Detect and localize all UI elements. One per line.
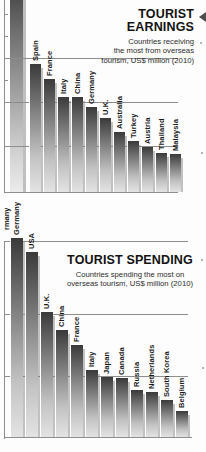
bar-label-uk: U.K. xyxy=(101,100,110,115)
bar-germany-spending[interactable]: Germany xyxy=(10,238,23,437)
chart1-baseline xyxy=(4,192,178,193)
chart2-title-block: TOURIST SPENDING Countries spending the … xyxy=(56,254,204,289)
chart-tourist-spending: Germany USA U.K. China France Italy xyxy=(0,199,200,439)
bar-italy-spending[interactable]: Italy xyxy=(85,370,98,437)
bar-label-austria: Austria xyxy=(143,117,152,144)
bar-belgium-spending[interactable]: Belgium xyxy=(175,411,188,437)
bar-austria[interactable]: Austria xyxy=(141,147,153,192)
bar-southkorea-spending[interactable]: South Korea xyxy=(160,400,173,437)
bar-label-thailand: Thailand xyxy=(157,118,166,150)
bar-label-spain: Spain xyxy=(31,40,40,61)
bar-label-germany: Germany xyxy=(87,71,96,104)
page-edge-dot-icon xyxy=(200,42,202,44)
bar-label-italy-spending: Italy xyxy=(87,351,96,367)
bar-france[interactable]: France xyxy=(43,79,55,192)
page-edge-dot-icon xyxy=(201,259,203,261)
bar-label-usa-spending: USA xyxy=(27,233,36,249)
chart1-title-block: TOURIST EARNINGS Countries receiving the… xyxy=(72,8,194,65)
bar-label-belgium-spending: Belgium xyxy=(177,378,186,408)
bar-label-russia-spending: Russia xyxy=(132,362,141,387)
bar-label-australia: Australia xyxy=(115,96,124,129)
bar-label-japan-spending: Japan xyxy=(102,352,111,374)
chart1-subtitle-line-3: tourism, US$ million (2010) xyxy=(72,56,194,65)
bar-italy[interactable]: Italy xyxy=(57,97,69,192)
bar-usa-spending[interactable]: USA xyxy=(25,252,38,437)
bar-canada-spending[interactable]: Canada xyxy=(115,378,128,437)
bar-uk-spending[interactable]: U.K. xyxy=(40,312,53,437)
bar-label-netherlands-spending: Netherlands xyxy=(147,345,156,389)
chart2-subtitle-line-2: overseas tourism, US$ million (2010) xyxy=(56,279,204,288)
bar-label-italy: Italy xyxy=(59,78,68,94)
page-edge-dot-icon xyxy=(202,367,204,369)
bar-label-uk-spending: U.K. xyxy=(42,294,51,309)
bar-label-france: France xyxy=(45,51,54,76)
chart2-plot-area: Germany USA U.K. China France Italy xyxy=(0,199,200,439)
bar-label-southkorea-spending: South Korea xyxy=(162,351,171,397)
bar-label-france-spending: France xyxy=(72,317,81,342)
chart1-subtitle-line-1: Countries receiving xyxy=(72,37,194,46)
bar-label-canada-spending: Canada xyxy=(117,347,126,375)
bar-china-spending[interactable]: China xyxy=(55,330,68,437)
bar-turkey[interactable]: Turkey xyxy=(127,141,139,192)
infographic-page: rmany Spain France xyxy=(0,0,206,452)
bar-russia-spending[interactable]: Russia xyxy=(130,390,143,437)
bar-japan-spending[interactable]: Japan xyxy=(100,377,113,437)
chart2-subtitle-line-1: Countries spending the most on xyxy=(56,270,204,279)
bar-thailand[interactable]: Thailand xyxy=(155,153,167,192)
bar-label-turkey: Turkey xyxy=(129,113,138,138)
bar-netherlands-spending[interactable]: Netherlands xyxy=(145,392,158,437)
page-edge-dot-icon xyxy=(201,152,203,154)
bar-label-germany-spending: Germany xyxy=(12,202,21,235)
bar-france-spending[interactable]: France xyxy=(70,345,83,437)
chart1-subtitle-line-2: the most from overseas xyxy=(72,46,194,55)
bar-germany[interactable]: Germany xyxy=(85,107,97,192)
bar-label-malaysia: Malaysia xyxy=(171,119,180,151)
page-edge-arrow-icon xyxy=(199,12,206,22)
chart1-title: TOURIST EARNINGS xyxy=(72,8,194,34)
bar-malaysia[interactable]: Malaysia xyxy=(169,154,181,192)
bar-australia[interactable]: Australia xyxy=(113,132,125,192)
bar-china[interactable]: China xyxy=(71,97,83,192)
chart2-bars: Germany USA U.K. China France Italy xyxy=(0,199,200,437)
bar-label-china-spending: China xyxy=(57,306,66,327)
bar-label-china: China xyxy=(73,73,82,94)
bar-uk[interactable]: U.K. xyxy=(99,118,111,192)
chart2-baseline xyxy=(4,437,192,438)
chart2-title: TOURIST SPENDING xyxy=(56,254,204,267)
bar-spain[interactable]: Spain xyxy=(29,64,41,192)
